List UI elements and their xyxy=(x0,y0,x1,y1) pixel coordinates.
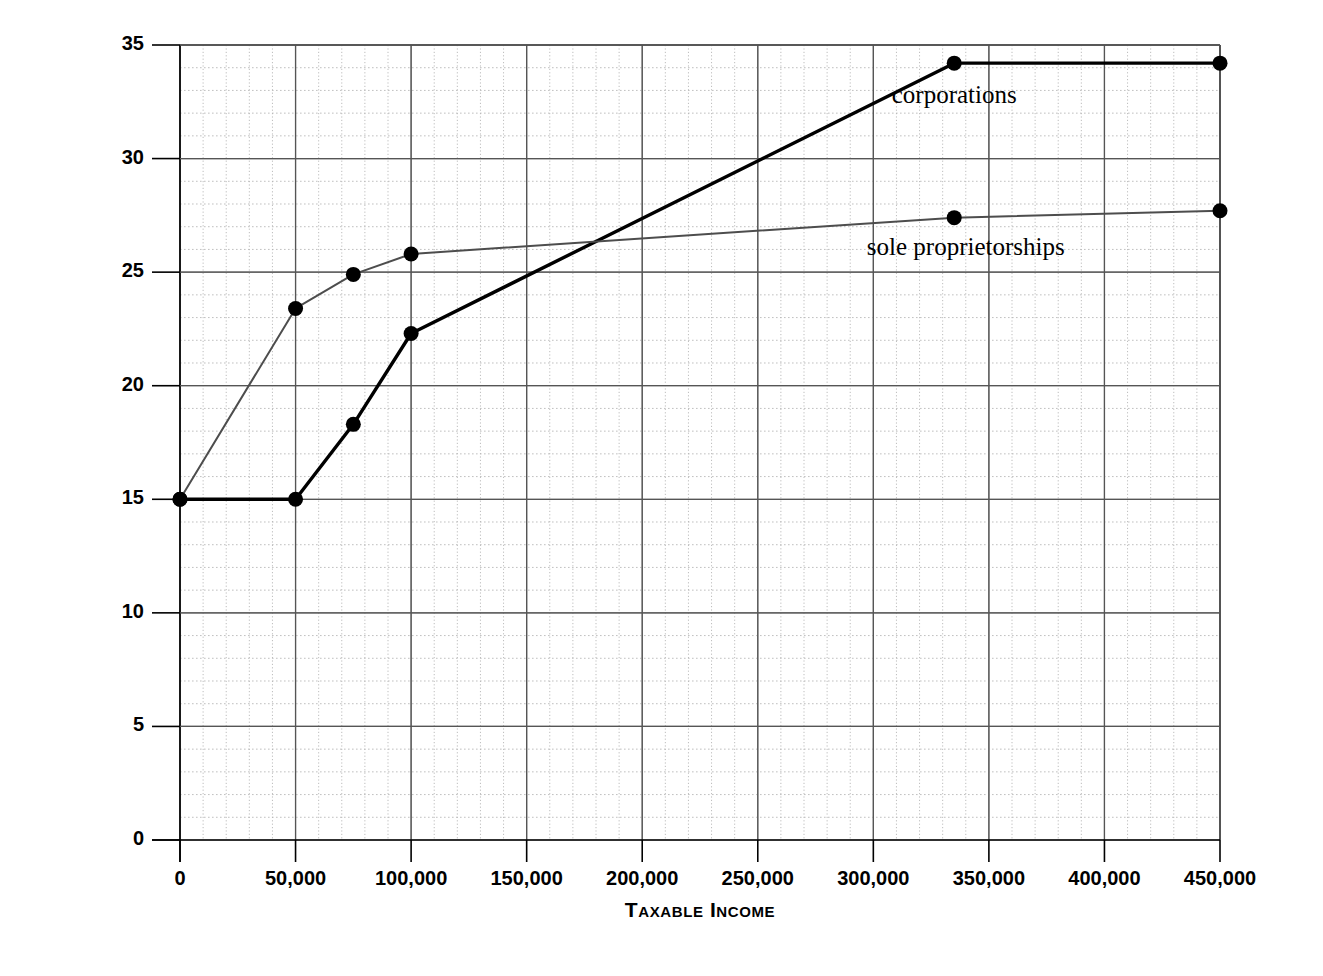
series-label-corporations: corporations xyxy=(892,81,1017,109)
series-point xyxy=(288,492,303,507)
x-axis-ticks xyxy=(180,840,1220,862)
y-tick-label: 25 xyxy=(98,259,144,282)
x-axis-title: Taxable Income xyxy=(180,898,1220,922)
plot-background xyxy=(180,45,1220,840)
y-tick-label: 35 xyxy=(98,32,144,55)
series-point xyxy=(404,326,419,341)
series-point xyxy=(346,267,361,282)
chart-figure: Marginal Tax Rate Taxable Income 0510152… xyxy=(0,0,1323,976)
y-tick-label: 15 xyxy=(98,486,144,509)
series-point xyxy=(947,56,962,71)
y-tick-label: 5 xyxy=(98,713,144,736)
y-tick-label: 0 xyxy=(98,827,144,850)
series-point xyxy=(173,492,188,507)
y-tick-label: 20 xyxy=(98,373,144,396)
y-tick-label: 30 xyxy=(98,146,144,169)
x-tick-label: 450,000 xyxy=(1150,867,1290,890)
series-point xyxy=(288,301,303,316)
series-point xyxy=(1213,203,1228,218)
series-label-sole-proprietorships: sole proprietorships xyxy=(867,233,1065,261)
series-point xyxy=(404,246,419,261)
series-point xyxy=(947,210,962,225)
chart-plot-area xyxy=(0,0,1323,976)
series-point xyxy=(346,417,361,432)
y-tick-label: 10 xyxy=(98,600,144,623)
series-point xyxy=(1213,56,1228,71)
